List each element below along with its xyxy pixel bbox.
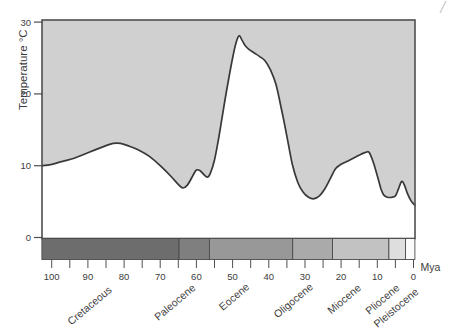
period-band-miocene (333, 239, 389, 260)
period-label-paleocene: Paleocene (152, 281, 198, 322)
x-tick-label: 10 (372, 271, 383, 282)
x-tick-label: 50 (227, 271, 238, 282)
y-tick-label: 0 (26, 232, 31, 243)
paleoclimate-temperature-chart: 1009080706050403020100 0102030 Cretaceou… (0, 0, 454, 332)
x-tick-label: 60 (191, 271, 202, 282)
x-tick-label: 70 (155, 271, 166, 282)
period-band-pliocene (389, 239, 406, 260)
x-tick-label: 90 (83, 271, 94, 282)
page-artifact-mark (440, 1, 446, 13)
temperature-area (42, 20, 415, 205)
period-label-oligocene: Oligocene (271, 280, 315, 320)
x-tick-label: 100 (44, 271, 60, 282)
y-tick-label: 30 (20, 17, 31, 28)
period-band-layer (42, 239, 415, 260)
period-label-eocene: Eocene (216, 280, 251, 312)
era-label-layer: CretaceousPaleoceneEoceneOligoceneMiocen… (65, 280, 421, 329)
plot-fill-layer (42, 20, 415, 205)
period-label-miocene: Miocene (325, 281, 363, 316)
period-label-cretaceous: Cretaceous (65, 283, 114, 327)
period-band-pleistocene (406, 239, 415, 260)
x-tick-label: 30 (300, 271, 311, 282)
period-band-eocene (209, 239, 292, 260)
period-band-oligocene (293, 239, 333, 260)
x-tick-label: 40 (264, 271, 275, 282)
figure: 1009080706050403020100 0102030 Cretaceou… (0, 0, 454, 332)
x-tick-label: 0 (411, 271, 416, 282)
x-axis-unit-label: Mya (421, 261, 441, 273)
x-tick-label: 20 (336, 271, 347, 282)
x-tick-label: 80 (119, 271, 130, 282)
y-axis-title: Temperature °C (17, 29, 29, 110)
y-tick-label: 10 (20, 160, 31, 171)
x-axis-layer: 1009080706050403020100 (44, 260, 416, 283)
period-band-cretaceous (42, 239, 179, 260)
period-band-paleocene (179, 239, 209, 260)
